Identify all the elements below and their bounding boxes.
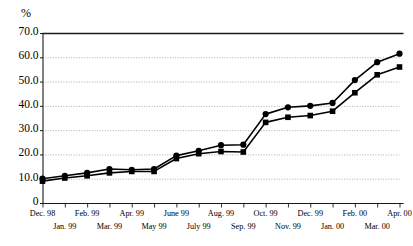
- data-point-marker-square: [84, 173, 90, 179]
- y-axis-tick-label: 30.0: [18, 122, 38, 134]
- data-point-marker-square: [129, 169, 135, 175]
- series-line-1: [43, 54, 400, 179]
- data-point-marker-square: [374, 72, 380, 78]
- y-axis-tick-label: 10.0: [18, 171, 38, 183]
- data-point-marker-circle: [218, 142, 224, 148]
- data-point-marker-square: [307, 113, 313, 119]
- data-point-marker-square: [62, 175, 68, 181]
- data-point-marker-square: [196, 151, 202, 157]
- chart-container: % 70.060.050.040.030.020.010.00 Dec. 98J…: [0, 0, 413, 246]
- data-point-marker-square: [285, 114, 291, 120]
- axis-lines: [40, 33, 404, 204]
- x-axis-tick-label: Dec. 99: [288, 209, 332, 218]
- data-point-marker-circle: [307, 103, 313, 109]
- y-axis-tick-label: 70.0: [18, 25, 38, 37]
- data-series-layer: [39, 51, 402, 184]
- y-axis-tick-label: 40.0: [18, 98, 38, 110]
- x-axis-tick-label: July 99: [177, 222, 221, 231]
- data-point-marker-circle: [396, 51, 402, 57]
- data-point-marker-circle: [352, 77, 358, 83]
- x-axis-tick-label: Sep. 99: [221, 222, 265, 231]
- data-point-marker-square: [151, 169, 157, 175]
- x-axis-tick-label: Jan. 00: [311, 222, 355, 231]
- x-axis-tick-label: Apr. 00: [378, 209, 413, 218]
- x-axis-tick-label: May 99: [132, 222, 176, 231]
- y-axis-tick-label: 0: [33, 195, 39, 207]
- data-point-marker-square: [107, 170, 113, 176]
- y-axis-tick-label: 50.0: [18, 74, 38, 86]
- data-point-marker-circle: [285, 104, 291, 110]
- y-axis-tick-label: 20.0: [18, 146, 38, 158]
- series-line-2: [43, 67, 400, 181]
- x-axis-tick-label: Oct. 99: [244, 209, 288, 218]
- x-axis-ticks: [43, 204, 400, 208]
- x-axis-tick-label: Feb. 99: [65, 209, 109, 218]
- data-point-marker-circle: [374, 59, 380, 65]
- data-point-marker-square: [174, 156, 180, 162]
- data-point-marker-square: [330, 108, 336, 114]
- x-axis-tick-label: Feb. 00: [333, 209, 377, 218]
- data-point-marker-square: [241, 149, 247, 155]
- x-axis-tick-label: Jan. 99: [43, 222, 87, 231]
- data-point-marker-square: [218, 149, 224, 155]
- data-point-marker-square: [40, 178, 46, 184]
- x-axis-tick-label: June 99: [154, 209, 198, 218]
- x-axis-tick-label: Mar. 00: [355, 222, 399, 231]
- x-axis-tick-label: Mar. 99: [87, 222, 131, 231]
- data-point-marker-circle: [329, 100, 335, 106]
- x-axis-tick-label: Dec. 98: [21, 209, 65, 218]
- data-point-marker-square: [397, 64, 403, 70]
- x-axis-tick-label: Apr. 99: [110, 209, 154, 218]
- gridlines: [43, 34, 400, 180]
- x-axis-tick-label: Nov. 99: [266, 222, 310, 231]
- data-point-marker-circle: [240, 142, 246, 148]
- data-point-marker-square: [352, 90, 358, 96]
- data-point-marker-square: [263, 120, 269, 126]
- data-point-marker-circle: [263, 111, 269, 117]
- x-axis-tick-label: Aug. 99: [199, 209, 243, 218]
- y-axis-tick-label: 60.0: [18, 49, 38, 61]
